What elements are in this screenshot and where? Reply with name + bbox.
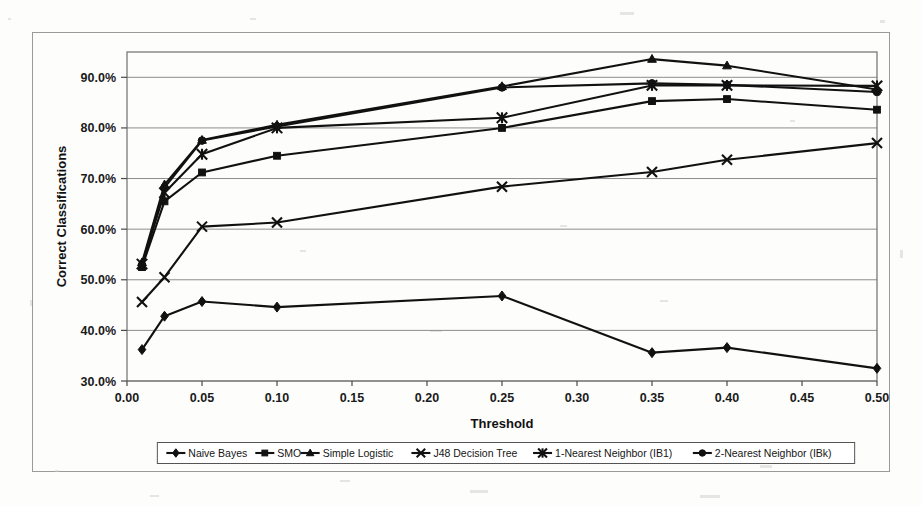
speck — [790, 120, 795, 122]
marker-diamond — [648, 348, 656, 358]
marker-diamond — [273, 302, 281, 312]
y-tick-label: 70.0% — [81, 172, 116, 186]
speck — [470, 490, 488, 493]
speck — [880, 20, 885, 23]
marker-circle — [498, 84, 506, 92]
marker-diamond — [198, 297, 206, 307]
series-line — [142, 99, 877, 267]
series-line — [142, 296, 877, 368]
marker-circle — [138, 261, 146, 269]
speck — [560, 225, 567, 227]
x-tick-label: 0.25 — [490, 391, 514, 405]
x-tick-label: 0.30 — [565, 391, 589, 405]
chart-container: 0.000.050.100.150.200.250.300.350.400.45… — [0, 0, 922, 506]
marker-square — [874, 106, 881, 113]
legend-item-label: 2-Nearest Neighbor (IBk) — [715, 447, 832, 459]
marker-star — [197, 149, 207, 160]
speck — [300, 250, 306, 252]
marker-circle — [198, 137, 206, 145]
speck — [55, 470, 59, 472]
speck — [660, 300, 668, 302]
y-tick-label: 60.0% — [81, 223, 116, 237]
marker-circle-legend — [699, 450, 705, 456]
legend-item-label: Simple Logistic — [323, 447, 394, 459]
series-2-nearest-neighbor-ibk — [138, 80, 881, 269]
series-smo — [139, 96, 881, 271]
legend-item-label: SMO — [277, 447, 301, 459]
marker-square — [724, 96, 731, 103]
y-axis-title: Correct Classifications — [54, 146, 69, 288]
marker-circle — [723, 81, 731, 89]
y-tick-label: 80.0% — [81, 121, 116, 135]
marker-diamond — [723, 343, 731, 353]
speck — [150, 495, 159, 497]
x-tick-label: 0.15 — [340, 391, 364, 405]
y-tick-label: 30.0% — [81, 375, 116, 389]
series-line — [142, 143, 877, 302]
x-axis: 0.000.050.100.150.200.250.300.350.400.45… — [115, 381, 889, 405]
x-tick-label: 0.35 — [640, 391, 664, 405]
series-group — [137, 54, 882, 373]
speck — [700, 495, 720, 498]
marker-square-legend — [262, 450, 268, 456]
series-naive-bayes — [138, 291, 881, 373]
y-tick-label: 90.0% — [81, 71, 116, 85]
series-line — [142, 85, 877, 264]
marker-cross — [160, 272, 170, 282]
line-chart: 0.000.050.100.150.200.250.300.350.400.45… — [0, 0, 922, 506]
x-tick-label: 0.45 — [790, 391, 814, 405]
legend-item-label: Naive Bayes — [188, 447, 247, 459]
marker-cross — [137, 297, 147, 307]
series-line — [142, 83, 877, 265]
x-tick-label: 0.10 — [265, 391, 289, 405]
marker-square — [499, 125, 506, 132]
marker-square — [649, 98, 656, 105]
marker-square — [274, 152, 281, 159]
marker-circle — [648, 80, 656, 88]
marker-circle — [873, 88, 881, 96]
marker-diamond — [873, 363, 881, 373]
x-axis-title: Threshold — [471, 416, 534, 431]
x-tick-label: 0.05 — [190, 391, 214, 405]
x-tick-label: 0.00 — [115, 391, 139, 405]
x-tick-label: 0.50 — [865, 391, 889, 405]
marker-circle — [161, 184, 169, 192]
marker-square — [199, 169, 206, 176]
marker-diamond — [498, 291, 506, 301]
x-tick-label: 0.20 — [415, 391, 439, 405]
y-axis: 30.0%40.0%50.0%60.0%70.0%80.0%90.0% — [81, 71, 127, 389]
y-tick-label: 50.0% — [81, 273, 116, 287]
speck — [760, 465, 772, 468]
speck — [340, 480, 350, 482]
speck — [8, 18, 11, 20]
speck — [250, 18, 256, 20]
marker-circle — [273, 123, 281, 131]
series-1-nearest-neighbor-ib1 — [137, 80, 882, 270]
y-tick-label: 40.0% — [81, 324, 116, 338]
series-j48-decision-tree — [137, 138, 882, 307]
legend-item-label: J48 Decision Tree — [433, 447, 517, 459]
x-tick-label: 0.40 — [715, 391, 739, 405]
speck — [900, 250, 903, 258]
speck — [620, 12, 634, 15]
speck — [30, 300, 32, 306]
legend: Naive BayesSMOSimple LogisticJ48 Decisio… — [157, 443, 854, 464]
legend-item-label: 1-Nearest Neighbor (IB1) — [555, 447, 672, 459]
